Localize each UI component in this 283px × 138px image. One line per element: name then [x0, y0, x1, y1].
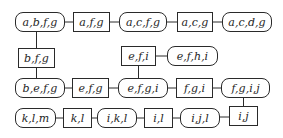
clique-node: i,j,l [180, 108, 220, 128]
separator-node: i,j [229, 106, 258, 126]
clique-node: e,f,g,i [118, 78, 168, 98]
clique-node: a,c,f,g [119, 12, 167, 32]
separator-node: k,l [63, 108, 92, 128]
clique-node: f,g,i,j [221, 78, 270, 98]
separator-node: i,l [144, 108, 173, 128]
junction-tree-diagram: a,b,f,ga,f,ga,c,f,ga,c,ga,c,d,gb,f,ge,f,… [0, 0, 283, 138]
clique-node: a,c,d,g [222, 12, 272, 32]
separator-node: e,f,g [72, 78, 109, 98]
clique-node: b,e,f,g [15, 78, 65, 98]
separator-node: e,f,i [121, 46, 156, 66]
separator-node: a,f,g [73, 12, 110, 32]
separator-node: b,f,g [18, 48, 55, 68]
clique-node: k,l,m [15, 108, 56, 128]
separator-node: f,g,i [176, 78, 213, 98]
clique-node: a,b,f,g [15, 12, 65, 32]
clique-node: e,f,h,i [167, 46, 218, 66]
clique-node: i,k,l [97, 108, 137, 128]
separator-node: a,c,g [177, 12, 213, 32]
